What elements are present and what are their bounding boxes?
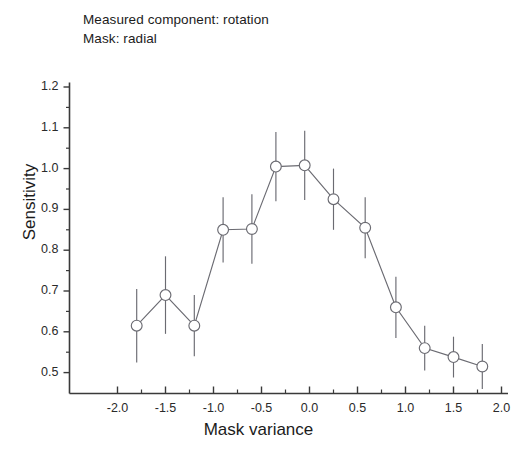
chart-figure: Measured component: rotation Mask: radia… (0, 0, 517, 452)
data-point-marker (160, 290, 171, 301)
data-point-marker (448, 352, 459, 363)
data-point-marker (328, 194, 339, 205)
data-point-marker (360, 222, 371, 233)
data-point-marker (189, 320, 200, 331)
data-point-marker (247, 224, 258, 235)
data-markers (131, 160, 487, 372)
data-point-marker (477, 361, 488, 372)
data-line (137, 165, 483, 366)
data-point-marker (131, 320, 142, 331)
plot-area (0, 0, 517, 452)
data-point-marker (419, 343, 430, 354)
axis-ticks (64, 87, 502, 394)
data-point-marker (391, 302, 402, 313)
data-point-marker (271, 161, 282, 172)
data-point-marker (299, 160, 310, 171)
data-polyline (137, 165, 483, 366)
axis-lines (70, 83, 509, 394)
data-point-marker (218, 224, 229, 235)
